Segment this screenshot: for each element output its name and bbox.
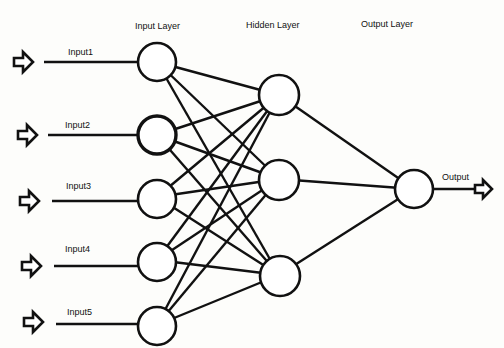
input-node-5	[138, 307, 176, 345]
input-node-1	[138, 43, 176, 81]
output-label: Output	[442, 172, 470, 182]
hidden-node-1	[259, 75, 299, 115]
input-node-3	[138, 180, 176, 218]
input-node-2	[138, 116, 176, 154]
input3-arrow-icon	[20, 191, 39, 211]
output-layer-label: Output Layer	[361, 19, 413, 29]
neural-network-diagram: Input Layer Hidden Layer Output Layer In…	[0, 0, 504, 348]
input5-arrow-icon	[24, 312, 43, 332]
input2-label: Input2	[65, 120, 90, 130]
output-arrow-icon	[475, 180, 492, 198]
input4-arrow-icon	[22, 256, 41, 276]
output-node	[395, 170, 433, 208]
hidden-layer-label: Hidden Layer	[246, 20, 300, 30]
input1-arrow-icon	[14, 52, 33, 72]
input-layer-label: Input Layer	[135, 21, 180, 31]
hidden-node-3	[260, 256, 300, 296]
input1-label: Input1	[68, 47, 93, 57]
input5-label: Input5	[67, 307, 92, 317]
input2-arrow-icon	[18, 125, 37, 145]
input-node-4	[138, 243, 176, 281]
input3-label: Input3	[66, 181, 91, 191]
hidden-node-2	[259, 160, 299, 200]
input4-label: Input4	[65, 244, 90, 254]
